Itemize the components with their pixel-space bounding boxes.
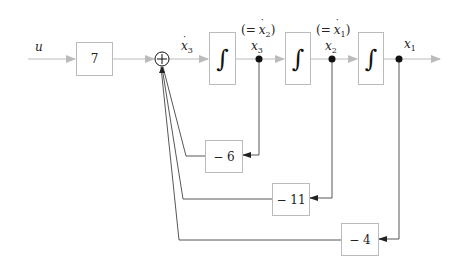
label-alias-x1-dot: (=·x1) [316, 24, 350, 39]
node-x1 [396, 56, 403, 63]
feedback-gain-6: − 6 [205, 140, 243, 173]
block-diagram: 7 ∫ ∫ ∫ − 6 − 11 − 4 u ·x3 (=·x2) x3 (=·… [0, 0, 466, 279]
gain-block-7: 7 [76, 42, 113, 76]
integrator-2: ∫ [285, 32, 311, 85]
var: x [334, 23, 341, 37]
subscript: 2 [332, 46, 337, 55]
subscript: 3 [188, 46, 193, 55]
var-dot: ·x [334, 23, 341, 37]
paren-open: (= [316, 23, 331, 37]
paren-close: ) [346, 23, 351, 37]
var: x [259, 23, 266, 37]
label-x1: x1 [404, 38, 416, 53]
var: x [251, 39, 258, 53]
label-alias-x2-dot: (=·x2) [241, 24, 275, 39]
subscript: 3 [258, 46, 263, 55]
dot-mark: · [261, 15, 264, 25]
dot-mark: · [336, 15, 339, 25]
feedback-gain-11: − 11 [272, 183, 310, 216]
var-dot: ·x [259, 23, 266, 37]
node-x3 [256, 56, 263, 63]
integrator-3: ∫ [358, 32, 384, 85]
integrator-1: ∫ [209, 32, 236, 85]
var: x [404, 37, 411, 51]
summing-junction [155, 52, 169, 66]
feedback-gain-4: − 4 [341, 223, 379, 256]
label-x3: x3 [251, 40, 263, 55]
label-x2: x2 [325, 40, 337, 55]
dot-mark: · [183, 32, 186, 42]
var: x [325, 39, 332, 53]
node-x2 [329, 56, 336, 63]
label-u: u [35, 41, 43, 53]
subscript: 1 [411, 44, 416, 53]
paren-open: (= [241, 23, 256, 37]
paren-close: ) [271, 23, 276, 37]
label-x3-dot: ·x3 [181, 40, 193, 55]
